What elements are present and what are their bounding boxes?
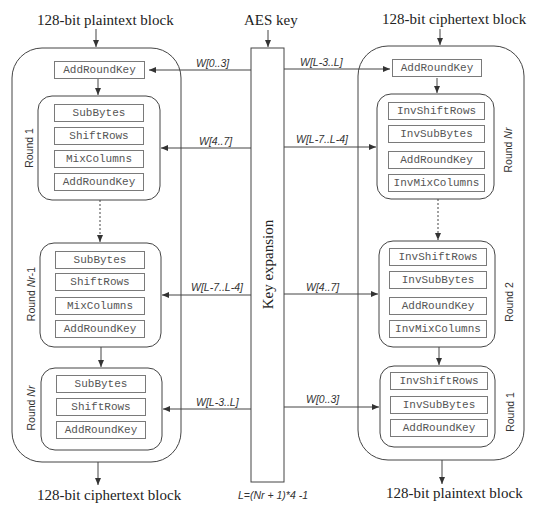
encrypt-step: ShiftRows	[55, 273, 145, 291]
key-word-label: W[L-7..L-4]	[296, 133, 348, 145]
decrypt-step: InvShiftRows	[388, 102, 485, 120]
decrypt-step: AddRoundKey	[389, 297, 487, 315]
decrypt-output-label: 128-bit plaintext block	[386, 486, 523, 501]
decrypt-step: AddRoundKey	[390, 419, 488, 437]
decrypt-step: InvShiftRows	[390, 372, 488, 390]
decrypt-step: InvMixColumns	[388, 174, 485, 192]
decrypt-step: InvSubBytes	[389, 271, 487, 289]
decrypt-step: InvShiftRows	[389, 248, 487, 266]
decrypt-step: InvMixColumns	[389, 320, 487, 338]
decrypt-initial-addroundkey: AddRoundKey	[392, 59, 482, 77]
round-label: Round Nr	[25, 373, 37, 443]
key-word-label: W[L-3..L]	[196, 396, 239, 408]
encrypt-step: AddRoundKey	[56, 421, 146, 439]
encrypt-step: ShiftRows	[54, 127, 144, 145]
round-label: Round 1	[504, 377, 516, 447]
key-expansion-label: Key expansion	[260, 205, 277, 325]
decrypt-step: InvSubBytes	[388, 125, 485, 143]
round-label: Round 2	[503, 267, 515, 337]
key-length-footnote: L=(Nr + 1)*4 -1	[238, 489, 308, 501]
decrypt-step: InvSubBytes	[390, 396, 488, 414]
key-word-label: W[4..7]	[199, 135, 232, 147]
encrypt-step: SubBytes	[54, 104, 144, 122]
key-word-label: W[0..3]	[196, 57, 229, 69]
encrypt-step: SubBytes	[56, 375, 146, 393]
key-word-label: W[0..3]	[306, 393, 339, 405]
round-label: Round 1	[23, 113, 35, 183]
aes-key-label: AES key	[244, 13, 298, 28]
decrypt-step: AddRoundKey	[388, 151, 485, 169]
key-word-label: W[L-3..L]	[300, 56, 343, 68]
encrypt-step: AddRoundKey	[55, 320, 145, 338]
encrypt-input-label: 128-bit plaintext block	[37, 13, 174, 28]
key-word-label: W[4..7]	[306, 281, 339, 293]
encrypt-step: ShiftRows	[56, 398, 146, 416]
encrypt-initial-addroundkey: AddRoundKey	[54, 61, 145, 79]
key-word-label: W[L-7..L-4]	[191, 281, 243, 293]
encrypt-output-label: 128-bit ciphertext block	[37, 488, 181, 503]
encrypt-step: MixColumns	[54, 150, 144, 168]
round-label: Round Nr-1	[25, 259, 37, 329]
decrypt-input-label: 128-bit ciphertext block	[382, 12, 526, 27]
encrypt-step: AddRoundKey	[54, 173, 144, 191]
encrypt-step: MixColumns	[55, 297, 145, 315]
round-label: Round Nr	[502, 115, 514, 185]
encrypt-step: SubBytes	[55, 251, 145, 269]
